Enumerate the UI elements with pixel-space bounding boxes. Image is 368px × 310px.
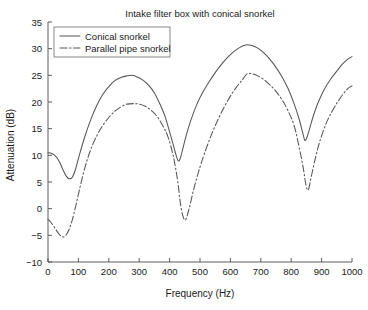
x-tick-label: 400 (162, 266, 178, 277)
x-tick-label: 600 (222, 266, 238, 277)
x-axis-tick-labels: 01002003004005006007008009001000 (45, 266, 362, 277)
chart-legend[interactable]: Conical snorkel Parallel pipe snorkel (54, 27, 171, 57)
x-axis-ticks (48, 258, 352, 262)
data-series-group (48, 45, 352, 237)
y-tick-label: 35 (31, 17, 42, 28)
x-tick-label: 500 (192, 266, 208, 277)
y-tick-label: 15 (31, 123, 42, 134)
x-tick-label: 0 (45, 266, 50, 277)
series-line-conical-snorkel (48, 45, 352, 179)
chart-title: Intake filter box with conical snorkel (125, 8, 274, 19)
x-tick-label: 900 (314, 266, 330, 277)
x-tick-label: 200 (101, 266, 117, 277)
x-axis-title: Frequency (Hz) (166, 288, 235, 299)
y-tick-label: 20 (31, 97, 42, 108)
y-tick-label: 10 (31, 150, 42, 161)
x-tick-label: 300 (131, 266, 147, 277)
legend-label-parallel-pipe-snorkel: Parallel pipe snorkel (85, 43, 171, 54)
y-axis-ticks (48, 22, 52, 262)
y-tick-label: 25 (31, 70, 42, 81)
y-tick-label: −5 (31, 230, 42, 241)
x-tick-label: 1000 (341, 266, 362, 277)
x-tick-label: 700 (253, 266, 269, 277)
y-tick-label: 0 (37, 203, 42, 214)
legend-label-conical-snorkel: Conical snorkel (85, 31, 150, 42)
y-tick-label: −10 (26, 257, 42, 268)
attenuation-line-chart: Intake filter box with conical snorkel A… (0, 0, 368, 310)
y-tick-label: 5 (37, 177, 42, 188)
chart-figure: Intake filter box with conical snorkel A… (0, 0, 368, 310)
y-tick-label: 30 (31, 43, 42, 54)
x-tick-label: 100 (70, 266, 86, 277)
x-tick-label: 800 (283, 266, 299, 277)
y-axis-tick-labels: −10−505101520253035 (26, 17, 42, 268)
y-axis-title: Attenuation (dB) (5, 109, 16, 181)
